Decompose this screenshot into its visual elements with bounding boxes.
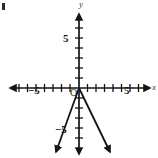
origin-label: O (70, 88, 77, 98)
coordinate-plane-figure: −5 5 5 −5 y x O (0, 0, 158, 158)
x-tick-label-pos5: 5 (124, 85, 130, 96)
y-axis-label: y (79, 0, 83, 9)
plot-line-right (79, 88, 110, 152)
x-tick-label-neg5: −5 (28, 85, 40, 96)
y-tick-label-neg5: −5 (55, 124, 67, 135)
x-axis-label: x (152, 83, 156, 92)
corner-artifact-mark (2, 3, 5, 10)
y-tick-label-pos5: 5 (63, 33, 69, 44)
graph-canvas (0, 0, 158, 158)
